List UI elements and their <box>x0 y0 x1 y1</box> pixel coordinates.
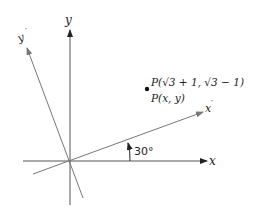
rotation-of-axes-diagram: y x y ′ x ′ 30° P(√3 + 1, √3 − 1) P(x, y… <box>0 0 255 218</box>
y-prime-axis <box>27 48 83 198</box>
x-prime-mark: ′ <box>211 98 213 107</box>
y-prime-mark: ′ <box>25 26 27 35</box>
angle-label: 30° <box>134 145 154 158</box>
x-axis-label: x <box>209 154 216 168</box>
y-axis-label: y <box>64 13 72 27</box>
point-p <box>145 87 149 91</box>
point-original-coordinates: P(x, y) <box>150 92 185 104</box>
point-rotated-coordinates: P(√3 + 1, √3 − 1) <box>150 76 244 88</box>
angle-arc <box>128 143 130 161</box>
x-prime-axis <box>33 112 203 174</box>
